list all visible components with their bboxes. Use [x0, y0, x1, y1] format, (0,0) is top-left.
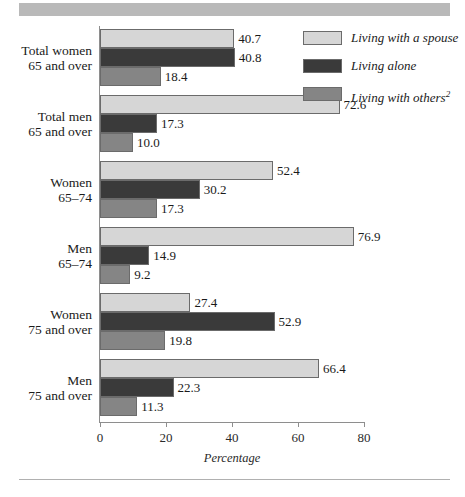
bar [100, 114, 157, 133]
bar-value-label: 30.2 [200, 180, 227, 199]
legend: Living with a spouseLiving aloneLiving w… [303, 29, 463, 113]
legend-swatch-icon [303, 87, 342, 101]
bar-value-label: 9.2 [130, 265, 150, 284]
category-label-line1: Men [0, 241, 92, 256]
bar [100, 246, 149, 265]
bar-value-label: 76.9 [354, 227, 381, 246]
legend-label-text: Living with a spouse [351, 30, 458, 45]
x-axis-tick-label: 60 [292, 430, 305, 446]
bar [100, 161, 273, 180]
category-label-line2: 75 and over [0, 388, 92, 403]
bar-value-label: 22.3 [174, 378, 201, 397]
figure: Total women65 and overTotal men65 and ov… [0, 0, 465, 497]
x-axis-tick [364, 422, 365, 427]
legend-label-text: Living alone [351, 58, 416, 73]
header-band [19, 3, 450, 16]
bar [100, 29, 234, 48]
category-label: Men75 and over [0, 373, 92, 403]
bar [100, 378, 174, 397]
category-label: Total women65 and over [0, 43, 92, 73]
legend-swatch-icon [303, 31, 342, 45]
bar [100, 67, 161, 86]
bar [100, 48, 235, 67]
category-label-line1: Women [0, 307, 92, 322]
bar-value-label: 27.4 [190, 293, 217, 312]
legend-item: Living with a spouse [303, 29, 463, 50]
bar [100, 265, 130, 284]
category-label-line1: Women [0, 175, 92, 190]
x-axis-tick [100, 422, 101, 427]
bar-value-label: 17.3 [157, 199, 184, 218]
bar [100, 312, 275, 331]
x-axis-tick-label: 0 [97, 430, 104, 446]
bar-value-label: 66.4 [319, 359, 346, 378]
category-label-line1: Men [0, 373, 92, 388]
x-axis-tick-label: 20 [160, 430, 173, 446]
category-label: Men65–74 [0, 241, 92, 271]
legend-item: Living with others2 [303, 85, 463, 106]
bar-value-label: 52.9 [275, 312, 302, 331]
bar-value-label: 19.8 [165, 331, 192, 350]
x-axis-tick [166, 422, 167, 427]
category-label-line1: Total men [0, 109, 92, 124]
bar [100, 133, 133, 152]
bar [100, 397, 137, 416]
bar [100, 331, 165, 350]
bar-value-label: 52.4 [273, 161, 300, 180]
bar [100, 180, 200, 199]
legend-label: Living with others2 [351, 85, 450, 107]
bar-value-label: 18.4 [161, 67, 188, 86]
bar [100, 227, 354, 246]
category-label-line2: 75 and over [0, 322, 92, 337]
bar [100, 293, 190, 312]
x-axis-tick-label: 80 [358, 430, 371, 446]
category-axis-labels: Total women65 and overTotal men65 and ov… [0, 26, 92, 422]
legend-label: Living with a spouse [351, 29, 458, 47]
legend-footnote-marker: 2 [446, 89, 451, 99]
bar-value-label: 10.0 [133, 133, 160, 152]
bar-value-label: 17.3 [157, 114, 184, 133]
footer-rule [19, 479, 450, 480]
category-label: Total men65 and over [0, 109, 92, 139]
bar-value-label: 40.7 [234, 29, 261, 48]
category-label-line1: Total women [0, 43, 92, 58]
bar [100, 359, 319, 378]
bar [100, 199, 157, 218]
category-label-line2: 65 and over [0, 58, 92, 73]
bar-value-label: 14.9 [149, 246, 176, 265]
x-axis-tick [298, 422, 299, 427]
x-axis-tick-label: 40 [226, 430, 239, 446]
category-label: Women75 and over [0, 307, 92, 337]
legend-swatch-icon [303, 59, 342, 73]
legend-label-text: Living with others [351, 90, 446, 105]
x-axis-title: Percentage [100, 451, 364, 466]
category-label-line2: 65–74 [0, 256, 92, 271]
legend-item: Living alone [303, 57, 463, 78]
bar-value-label: 40.8 [235, 48, 262, 67]
category-label-line2: 65–74 [0, 190, 92, 205]
bar-value-label: 11.3 [137, 397, 163, 416]
x-axis-tick [232, 422, 233, 427]
category-label: Women65–74 [0, 175, 92, 205]
legend-label: Living alone [351, 57, 416, 75]
category-label-line2: 65 and over [0, 124, 92, 139]
